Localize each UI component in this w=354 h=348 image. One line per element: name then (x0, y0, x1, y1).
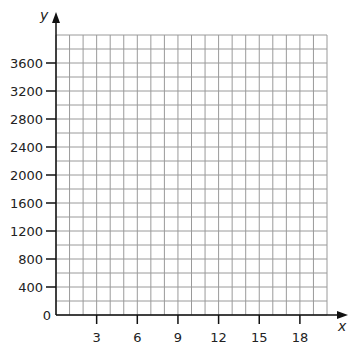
y-tick-label: 800 (18, 252, 43, 267)
coordinate-plane: 3691215180400800120016002000240028003200… (0, 0, 354, 348)
y-tick-label: 2400 (10, 140, 43, 155)
y-tick-label: 1200 (10, 224, 43, 239)
x-tick-label: 3 (93, 330, 101, 345)
y-tick-label: 3200 (10, 84, 43, 99)
x-tick-label: 15 (251, 330, 268, 345)
grid (56, 35, 327, 315)
y-tick-label: 0 (43, 308, 51, 323)
x-tick-label: 12 (210, 330, 227, 345)
y-tick-label: 400 (18, 280, 43, 295)
y-tick-label: 2800 (10, 112, 43, 127)
x-axis-label: x (337, 318, 347, 334)
y-tick-label: 3600 (10, 56, 43, 71)
ticks: 3691215180400800120016002000240028003200… (10, 56, 308, 345)
y-tick-label: 1600 (10, 196, 43, 211)
x-tick-label: 6 (133, 330, 141, 345)
y-axis-arrow-icon (52, 12, 60, 23)
x-tick-label: 18 (292, 330, 309, 345)
x-tick-label: 9 (174, 330, 182, 345)
y-axis-label: y (39, 7, 49, 23)
y-tick-label: 2000 (10, 168, 43, 183)
